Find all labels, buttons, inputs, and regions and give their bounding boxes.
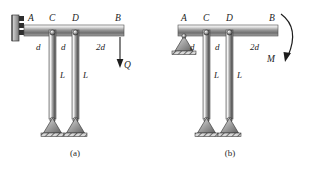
label-b-panel-a: B	[115, 13, 121, 23]
label-c-panel-a: C	[49, 13, 56, 23]
label-d-panel-b: D	[225, 13, 233, 23]
pin-joint-c-b	[204, 30, 209, 35]
length-label-d-b: L	[236, 70, 242, 80]
pin-support-d-a	[64, 118, 87, 137]
load-label-q: Q	[124, 60, 131, 70]
panel-a: A C D B d d 2d L L Q	[12, 13, 131, 137]
dim-cd-panel-a: d	[61, 42, 66, 52]
length-label-c-a: L	[59, 70, 65, 80]
panel-b: A C D B d d 2d L L M	[172, 13, 293, 137]
pin-joint-d-a	[73, 30, 78, 35]
dim-ac-panel-a: d	[36, 42, 41, 52]
pin-support-c-a	[41, 118, 64, 137]
dim-cd-panel-b: d	[215, 42, 220, 52]
vertical-bar-d-a	[72, 30, 79, 119]
label-c-panel-b: C	[203, 13, 210, 23]
vertical-bar-d-b	[226, 30, 233, 119]
label-b-panel-b: B	[269, 13, 275, 23]
label-a-panel-b: A	[180, 13, 187, 23]
figure-container: A C D B d d 2d L L Q	[0, 0, 315, 172]
dim-ac-panel-b: d	[190, 42, 195, 52]
vertical-bar-c-a	[49, 30, 56, 119]
pin-support-c-b	[195, 118, 218, 137]
pin-joint-d-b	[227, 30, 232, 35]
length-label-c-b: L	[213, 70, 219, 80]
pin-support-d-b	[218, 118, 241, 137]
caption-panel-b: (b)	[210, 148, 250, 158]
label-a-panel-a: A	[27, 13, 34, 23]
dim-db-panel-b: 2d	[250, 42, 260, 52]
label-d-panel-a: D	[71, 13, 79, 23]
pin-joint-c-a	[50, 30, 55, 35]
moment-arrow-m	[281, 14, 293, 62]
vertical-bar-c-b	[203, 30, 210, 119]
caption-panel-a: (a)	[55, 148, 95, 158]
length-label-d-a: L	[82, 70, 88, 80]
diagram-svg: A C D B d d 2d L L Q	[0, 0, 315, 172]
dim-db-panel-a: 2d	[96, 42, 106, 52]
load-arrow-q	[117, 37, 124, 68]
load-label-m: M	[266, 54, 276, 64]
fixed-wall-support-a	[12, 15, 24, 41]
